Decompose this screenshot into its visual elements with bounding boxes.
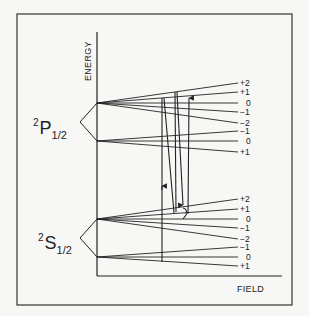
s-lower-fan	[97, 247, 238, 266]
mj-label: −1	[240, 126, 250, 136]
p-state-label: 2P1/2	[33, 117, 67, 141]
pump-arrow-up	[188, 98, 189, 214]
mj-label: −1	[240, 223, 250, 233]
s-state-label: 2S1/2	[38, 232, 72, 256]
mj-label: −1	[240, 242, 250, 252]
p-upper-fan	[97, 83, 238, 123]
decay-line	[175, 92, 176, 212]
transition-arrows	[162, 92, 189, 262]
mj-label: +1	[240, 147, 250, 157]
field-axis-label: FIELD	[237, 284, 264, 294]
mj-label: +1	[240, 87, 250, 97]
p-state-bracket	[80, 103, 97, 141]
mj-label: +1	[240, 261, 250, 271]
decay-hook	[183, 208, 187, 219]
mj-label: +2	[240, 194, 250, 204]
s-upper-fan	[97, 199, 238, 239]
mj-label: −1	[240, 107, 250, 117]
mj-label: +1	[240, 204, 250, 214]
p-sublevel-labels: +2 +1 0 −1 −2 −1 0 +1	[240, 78, 251, 157]
mj-label: 0	[246, 136, 251, 146]
decay-line	[164, 98, 174, 213]
diagram-frame	[17, 14, 292, 305]
s-sublevel-labels: +2 +1 0 −1 −2 −1 0 +1	[240, 194, 251, 271]
s-state-bracket	[80, 219, 97, 257]
zeeman-diagram: ENERGY FIELD 2P1/2 +2 +1 0 −1 −2 −1 0 +1…	[0, 0, 309, 316]
energy-axis-label: ENERGY	[83, 41, 93, 81]
decay-line	[177, 92, 183, 205]
